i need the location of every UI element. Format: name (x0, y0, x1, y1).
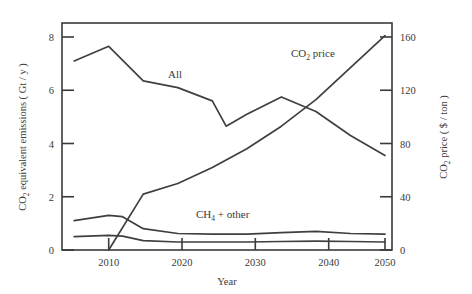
xtick-label: 2040 (318, 257, 339, 268)
ytick-label: 2 (49, 192, 54, 203)
x-axis-title: Year (217, 276, 237, 287)
annotation-ch4-pre: CH (196, 208, 211, 220)
left-axis-ticks (62, 37, 74, 250)
annotation-co2-price-post: price (310, 47, 335, 59)
xtick-label: 2010 (98, 257, 119, 268)
y2tick-label: 160 (400, 32, 416, 43)
ytick-label: 6 (49, 85, 54, 96)
x-axis-tick-labels: 2010 2020 2030 2040 2050 (98, 257, 395, 268)
ytick-label: 4 (49, 139, 55, 150)
y2tick-label: 40 (400, 192, 411, 203)
ytick-label: 8 (49, 32, 54, 43)
y2tick-label: 0 (400, 245, 405, 256)
series-line-all (74, 46, 385, 155)
chart-svg: 0 2 4 6 8 0 40 80 120 160 (0, 0, 472, 294)
annotation-all: All (168, 68, 182, 80)
annotation-co2-price: CO2 price (291, 47, 335, 62)
xtick-label: 2020 (172, 257, 193, 268)
y2-axis-title: CO2 price ( $ / ton ) (438, 95, 452, 179)
y2tick-label: 80 (400, 139, 411, 150)
right-axis-ticks (380, 37, 392, 250)
annotation-ch4-other: CH4 + other (196, 208, 250, 223)
xtick-label: 2050 (375, 257, 396, 268)
x-axis-ticks (109, 238, 385, 250)
chart-figure: 0 2 4 6 8 0 40 80 120 160 (0, 0, 472, 294)
annotation-ch4-post: + other (215, 208, 250, 220)
series-line-ch4-lower (74, 235, 385, 242)
y-axis-title-pre: CO (17, 196, 28, 211)
y-axis-title-post: equivalent emissions ( Gt / y ) (17, 63, 29, 193)
y2-axis-title-post: price ( $ / ton ) (438, 95, 450, 161)
y-axis-title: CO2 equivalent emissions ( Gt / y ) (17, 63, 31, 211)
right-axis-tick-labels: 0 40 80 120 160 (400, 32, 416, 256)
y2-axis-title-pre: CO (438, 164, 449, 179)
svg-text:CO2 equivalent emissions ( Gt: CO2 equivalent emissions ( Gt / y ) (17, 63, 31, 211)
left-axis-tick-labels: 0 2 4 6 8 (49, 32, 55, 256)
annotation-co2-price-pre: CO (291, 47, 306, 59)
ytick-label: 0 (49, 245, 54, 256)
xtick-label: 2030 (245, 257, 266, 268)
svg-text:CO2 price ( $ / ton ): CO2 price ( $ / ton ) (438, 95, 452, 179)
y2tick-label: 120 (400, 85, 416, 96)
